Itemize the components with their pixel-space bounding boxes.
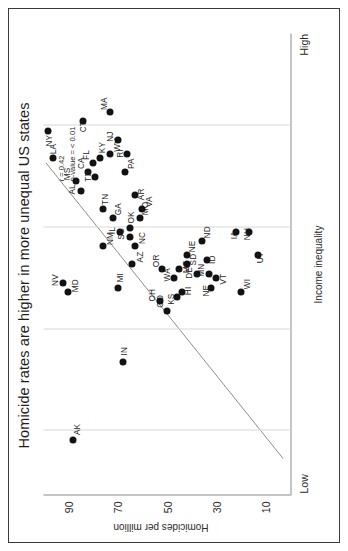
scatter-point-label: NC — [138, 232, 147, 244]
scatter-point-label: NV — [50, 274, 59, 286]
scatter-point-label: OR — [151, 254, 160, 267]
scatter-point-label: CT — [78, 121, 87, 132]
scatter-point[interactable] — [89, 159, 96, 166]
scatter-point-label: AL — [68, 184, 77, 194]
scatter-point[interactable] — [164, 307, 171, 314]
scatter-point-label: FL — [82, 150, 91, 160]
gridline — [44, 227, 291, 228]
scatter-point-label: DE — [185, 267, 194, 279]
scatter-point-label: TN — [101, 194, 110, 205]
scatter-point-label: OK — [127, 211, 136, 223]
scatter-point-label: NE — [201, 285, 210, 297]
scatter-point[interactable] — [99, 206, 106, 213]
scatter-point-label: NJ — [106, 131, 115, 141]
scatter-point-label: ID — [208, 255, 217, 264]
scatter-point[interactable] — [119, 358, 126, 365]
scatter-point-label: IN — [120, 347, 129, 356]
scatter-point-label: MS — [63, 168, 72, 181]
y-axis-tick: 10 — [260, 502, 272, 536]
scatter-point-label: OH — [148, 289, 157, 302]
scatter-point[interactable] — [77, 187, 84, 194]
scatter-point-label: IL — [107, 227, 116, 234]
scatter-point-label: KY — [97, 142, 106, 153]
scatter-point-label: GA — [114, 203, 123, 215]
scatter-point-label: HI — [184, 287, 193, 296]
scatter-point[interactable] — [72, 178, 79, 185]
x-axis-title: Income inequality — [313, 34, 324, 496]
scatter-point-label: AR — [137, 188, 146, 200]
scatter-point-label: NY — [44, 135, 53, 147]
scatter-point-label: MN — [197, 264, 206, 277]
scatter-point-label: MA — [99, 97, 108, 110]
x-axis-high-label: High — [298, 34, 310, 56]
scatter-point-label: UT — [255, 252, 264, 263]
plot-area: LANYAKNVMDMIINNMAZILSCNCOKGATNMOVAARALMS… — [44, 34, 291, 496]
scatter-point[interactable] — [126, 224, 133, 231]
scatter-point[interactable] — [205, 270, 212, 277]
scatter-point-label: VT — [218, 274, 227, 285]
scatter-point-label: WI — [242, 279, 251, 289]
scatter-point-label: NH — [243, 228, 252, 240]
rotated-chart-canvas: Homicide rates are higher in more unequa… — [10, 10, 339, 542]
figure-frame: Homicide rates are higher in more unequa… — [8, 8, 340, 543]
scatter-point-label: SC — [117, 228, 126, 240]
scatter-point-label: AZ — [135, 252, 144, 263]
x-axis-low-label: Low — [298, 474, 310, 493]
y-axis-title: Homicides per million — [61, 522, 261, 533]
scatter-point-label: ND — [203, 226, 212, 238]
scatter-point[interactable] — [126, 233, 133, 240]
scatter-point[interactable] — [114, 136, 121, 143]
scatter-point-label: IA — [229, 231, 238, 239]
scatter-point-label: MD — [70, 279, 79, 292]
scatter-point[interactable] — [183, 252, 190, 259]
scatter-point-label: RI — [115, 149, 124, 158]
scatter-point-label: KS — [167, 294, 176, 305]
scatter-point[interactable] — [45, 127, 52, 134]
scatter-point[interactable] — [114, 284, 121, 291]
scatter-point-label: AK — [72, 424, 81, 435]
scatter-point[interactable] — [198, 238, 205, 245]
scatter-point[interactable] — [109, 215, 116, 222]
scatter-point-label: MI — [116, 273, 125, 283]
scatter-point-label: PA — [126, 158, 135, 169]
scatter-point-label: TX — [83, 171, 92, 182]
gridline — [44, 328, 291, 329]
scatter-point-label: NE — [188, 240, 197, 252]
